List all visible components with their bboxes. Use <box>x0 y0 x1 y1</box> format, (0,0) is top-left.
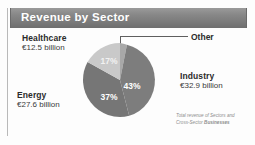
callout-healthcare-label: Healthcare <box>22 33 66 43</box>
page-title: Revenue by Sector <box>21 11 130 23</box>
left-rule-divider <box>7 8 8 136</box>
callout-healthcare-value: €12.5 billion <box>22 43 66 53</box>
footnote-line-2: Cross-Sector Businesses <box>176 120 250 127</box>
callout-energy-label: Energy <box>17 90 60 100</box>
callout-healthcare: Healthcare €12.5 billion <box>22 33 66 53</box>
pie-label-industry: 43% <box>123 81 140 91</box>
callout-industry-label: Industry <box>180 71 223 81</box>
footnote: Total revenue of Sectors and Cross-Secto… <box>176 113 250 126</box>
callout-industry-value: €32.9 billion <box>180 81 223 91</box>
leader-horizontal-segment <box>120 36 188 37</box>
pie-chart-svg: 43% 37% 17% <box>82 42 158 118</box>
callout-energy-value: €27.6 billion <box>17 100 60 110</box>
slide-canvas: Revenue by Sector Healthcare €12.5 billi… <box>0 0 255 145</box>
callout-other-label: Other <box>191 32 214 42</box>
pie-label-energy: 37% <box>100 92 117 102</box>
footnote-line-2-emphasis: Businesses <box>204 120 230 125</box>
title-bar: Revenue by Sector <box>10 8 247 28</box>
pie-chart: 43% 37% 17% <box>82 42 158 118</box>
callout-industry: Industry €32.9 billion <box>180 71 223 91</box>
callout-energy: Energy €27.6 billion <box>17 90 60 110</box>
pie-label-healthcare: 17% <box>100 56 117 66</box>
footnote-line-2-prefix: Cross-Sector <box>176 120 204 125</box>
